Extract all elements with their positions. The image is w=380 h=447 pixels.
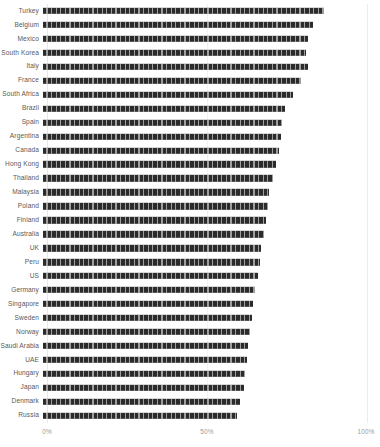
bar-category-label: Saudi Arabia [0,343,43,350]
bar-category-label: Poland [0,203,43,210]
bar-track [43,32,380,46]
bar-track [43,297,380,311]
bar-track [43,130,380,144]
bar-row: Spain [0,116,380,130]
bar [43,398,240,404]
bar-track [43,325,380,339]
x-tick-label-0: 0% [42,428,52,435]
bar-category-label: South Africa [0,91,43,98]
bar-track [43,199,380,213]
bar-track [43,144,380,158]
bar-track [43,116,380,130]
bar-row: Peru [0,255,380,269]
bar-row: Canada [0,144,380,158]
bar-category-label: Argentina [0,133,43,140]
bar-row: Norway [0,325,380,339]
bar-track [43,395,380,409]
bar-category-label: Mexico [0,36,43,43]
bar-row: Poland [0,199,380,213]
bar-row: Sweden [0,311,380,325]
bar-category-label: UK [0,245,43,252]
bar-row: UAE [0,353,380,367]
bar-row: Malaysia [0,185,380,199]
bar-category-label: Canada [0,147,43,154]
bar [43,385,244,391]
x-tick-label-50: 50% [200,428,213,435]
bar-track [43,18,380,32]
bar [43,50,306,56]
bar-category-label: Hungary [0,370,43,377]
bar-track [43,60,380,74]
bar-category-label: South Korea [0,50,43,57]
bar-row: Brazil [0,102,380,116]
bar-category-label: France [0,77,43,84]
bar [43,105,285,111]
bar-row: Belgium [0,18,380,32]
bar-category-label: Spain [0,119,43,126]
bar-track [43,367,380,381]
bar-category-label: Hong Kong [0,161,43,168]
bar-category-label: Turkey [0,8,43,15]
bar [43,245,261,251]
bar-category-label: UAE [0,357,43,364]
bar [43,175,273,181]
bar-track [43,269,380,283]
bar-track [43,46,380,60]
x-tick-label-100: 100% [357,428,374,435]
bar-track [43,311,380,325]
bar-row: Turkey [0,4,380,18]
bar-category-label: Australia [0,231,43,238]
x-axis: 0% 50% 100% [0,424,380,447]
bar [43,189,269,195]
bar [43,22,313,28]
bar-row: Finland [0,213,380,227]
bar-row: South Africa [0,88,380,102]
bar-row: Germany [0,283,380,297]
bar-track [43,102,380,116]
bar-row: Australia [0,227,380,241]
bar [43,371,245,377]
bar-category-label: Sweden [0,315,43,322]
bar-track [43,409,380,423]
bar-row: France [0,74,380,88]
bar-row: Argentina [0,130,380,144]
bar-track [43,74,380,88]
bar [43,36,308,42]
bar-track [43,283,380,297]
bar-category-label: Brazil [0,105,43,112]
bar [43,231,264,237]
bar-row: Russia [0,409,380,423]
bar-track [43,185,380,199]
bar-category-label: Russia [0,412,43,419]
bar-category-label: Finland [0,217,43,224]
bar-track [43,171,380,185]
bar-chart: TurkeyBelgiumMexicoSouth KoreaItalyFranc… [0,0,380,447]
bar [43,133,281,139]
bar [43,64,308,70]
bar [43,147,279,153]
bar-category-label: Belgium [0,22,43,29]
bar-row: South Korea [0,46,380,60]
bar-row: US [0,269,380,283]
bar-track [43,88,380,102]
bar-rows-container: TurkeyBelgiumMexicoSouth KoreaItalyFranc… [0,4,380,423]
bar [43,8,324,14]
bar-track [43,353,380,367]
bar [43,287,255,293]
bar [43,119,282,125]
bar-row: Italy [0,60,380,74]
bar-category-label: Singapore [0,301,43,308]
bar-row: Singapore [0,297,380,311]
bar-track [43,241,380,255]
bar-track [43,381,380,395]
bar [43,259,260,265]
bar [43,217,266,223]
bar [43,161,276,167]
bar [43,412,237,418]
bar-category-label: Peru [0,259,43,266]
bar-row: Saudi Arabia [0,339,380,353]
bar-category-label: Japan [0,384,43,391]
bar-category-label: Thailand [0,175,43,182]
bar-track [43,227,380,241]
bar-row: Hungary [0,367,380,381]
